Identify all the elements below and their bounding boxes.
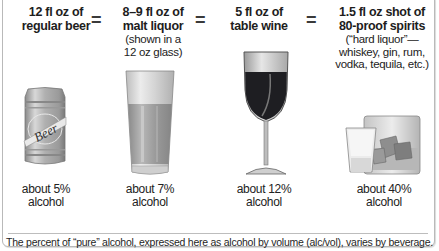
malt-liquor-heading: 8–9 fl oz of malt liquor (shown in a 12 …: [114, 6, 192, 58]
spirits-note-line2: whiskey, gin, rum,: [326, 46, 438, 59]
spirits-note-line3: vodka, tequila, etc.): [326, 58, 438, 71]
equals-sign-3: =: [306, 10, 317, 31]
spirits-percent-label: alcohol: [344, 196, 424, 209]
wine-heading-line2: table wine: [222, 20, 296, 34]
beer-heading: 12 fl oz of regular beer: [8, 6, 104, 33]
beer-percent-value: about 5%: [8, 183, 84, 196]
beer-heading-line1: 12 fl oz of: [8, 6, 104, 20]
spirits-heading: 1.5 fl oz shot of 80-proof spirits (“har…: [326, 6, 438, 71]
beer-percent: about 5% alcohol: [8, 183, 84, 208]
wine-heading-line1: 5 fl oz of: [222, 6, 296, 20]
malt-heading-line1: 8–9 fl oz of: [114, 6, 192, 20]
spirits-heading-line2: 80-proof spirits: [326, 20, 438, 34]
spirits-heading-line1: 1.5 fl oz shot of: [326, 6, 438, 20]
beer-can-icon: Beer: [22, 87, 68, 169]
spirits-note-line1: (“hard liquor”—: [326, 33, 438, 46]
spirits-percent: about 40% alcohol: [344, 183, 424, 208]
wine-glass-icon: [240, 50, 292, 178]
wine-percent-value: about 12%: [226, 183, 302, 196]
beer-percent-label: alcohol: [8, 196, 84, 209]
malt-note-line1: (shown in a: [114, 33, 192, 46]
wine-heading: 5 fl oz of table wine: [222, 6, 296, 33]
footer-divider: [8, 233, 428, 234]
malt-note-line2: 12 oz glass): [114, 46, 192, 59]
equals-sign-1: =: [91, 10, 102, 31]
pint-glass-icon: [124, 70, 176, 180]
malt-percent-value: about 7%: [112, 183, 188, 196]
malt-percent: about 7% alcohol: [112, 183, 188, 208]
footer-note: The percent of “pure” alcohol, expressed…: [0, 236, 439, 248]
beer-heading-line2: regular beer: [8, 20, 104, 34]
wine-percent-label: alcohol: [226, 196, 302, 209]
equals-sign-2: =: [195, 10, 206, 31]
malt-percent-label: alcohol: [112, 196, 188, 209]
shot-and-rocks-glass-icon: [344, 114, 424, 176]
wine-percent: about 12% alcohol: [226, 183, 302, 208]
spirits-percent-value: about 40%: [344, 183, 424, 196]
malt-heading-line2: malt liquor: [114, 20, 192, 34]
